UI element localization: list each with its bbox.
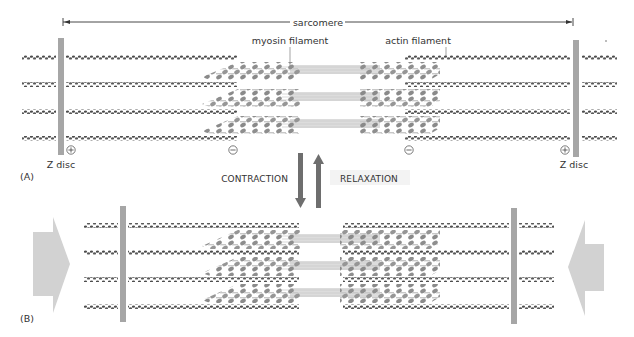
arrow-up-icon — [313, 154, 324, 208]
actin-filament-label: actin filament — [385, 35, 451, 46]
sarcomere-diagram: sarcomere myosin filament actin filament — [0, 0, 634, 337]
push-arrow-left-icon — [568, 220, 604, 316]
speck — [605, 40, 607, 42]
z-disc-left-a — [58, 38, 64, 155]
z-disc-right-b — [511, 208, 517, 324]
plus-circle-icon — [561, 146, 569, 154]
myosin-filaments-a — [202, 62, 440, 134]
plus-circle-icon — [67, 146, 75, 154]
panel-b-label: (B) — [20, 313, 34, 324]
z-disc-label-left: Z disc — [47, 159, 75, 170]
z-disc-left-b — [120, 206, 126, 322]
myosin-filaments-b — [202, 230, 440, 303]
panel-b: (B) — [20, 206, 604, 324]
arrow-down-icon — [295, 153, 306, 208]
relaxation-label: RELAXATION — [340, 174, 398, 184]
push-arrow-right-icon — [33, 217, 70, 313]
myosin-filament-label: myosin filament — [252, 35, 329, 46]
contraction-label: CONTRACTION — [221, 174, 288, 184]
z-disc-right-a — [573, 40, 579, 157]
minus-circle-icon — [229, 146, 237, 154]
z-disc-label-right: Z disc — [560, 159, 588, 170]
sarcomere-label: sarcomere — [293, 17, 343, 28]
transition: CONTRACTION RELAXATION — [221, 153, 410, 208]
panel-a-label: (A) — [20, 171, 34, 182]
minus-circle-icon — [405, 146, 413, 154]
